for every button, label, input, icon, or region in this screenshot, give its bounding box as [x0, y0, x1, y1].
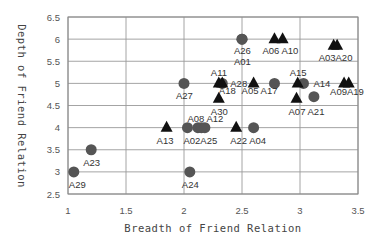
point-label: A30 — [211, 106, 228, 117]
y-tick-label: 3.5 — [47, 144, 60, 155]
point-label: A29 — [69, 179, 86, 190]
y-tick-label: 5 — [55, 78, 60, 89]
triangle-marker — [277, 32, 289, 43]
y-tick-label: 5.5 — [47, 56, 60, 67]
circle-marker — [182, 122, 193, 133]
y-tick-label: 6 — [55, 34, 60, 45]
point-label: A06 A10 — [262, 45, 298, 56]
x-tick-label: 2 — [181, 205, 186, 216]
triangle-marker — [230, 121, 242, 132]
data-markers — [68, 32, 354, 177]
y-tick-label: 4 — [55, 122, 60, 133]
point-label: A07 A21 — [289, 106, 325, 117]
circle-marker — [184, 166, 195, 177]
y-tick-label: 4.5 — [47, 100, 60, 111]
x-tick-label: 2.5 — [235, 205, 248, 216]
triangle-marker — [161, 121, 173, 132]
circle-marker — [248, 122, 259, 133]
point-label: A03A20 — [319, 52, 353, 63]
x-tick-label: 3.5 — [351, 205, 364, 216]
point-label: A13 — [157, 135, 174, 146]
x-tick-label: 1.5 — [119, 205, 132, 216]
x-tick-label: 1 — [65, 205, 70, 216]
point-label: A11 — [211, 67, 227, 78]
circle-marker — [199, 122, 210, 133]
point-label: A15 — [290, 67, 307, 78]
triangle-marker — [291, 92, 303, 103]
point-label: A09A19 — [330, 86, 364, 97]
circle-marker — [237, 34, 248, 45]
y-tick-label: 6.5 — [47, 12, 60, 23]
point-label: A02A25 — [183, 135, 217, 146]
y-tick-labels: 2.533.544.555.566.5 — [47, 12, 60, 200]
point-label: A26 — [234, 45, 251, 56]
y-tick-label: 2.5 — [47, 189, 60, 200]
circle-marker — [179, 78, 190, 89]
x-axis-title: Breadth of Friend Relation — [124, 222, 301, 234]
x-tick-label: 3 — [297, 205, 302, 216]
scatter-chart: 2.533.544.555.566.5 11.522.533.5 Breadth… — [0, 0, 390, 246]
y-tick-label: 3 — [55, 166, 60, 177]
circle-marker — [308, 91, 319, 102]
circle-marker — [68, 166, 79, 177]
circle-marker — [86, 144, 97, 155]
y-axis-title: Depth of Friend Relation — [16, 24, 28, 188]
point-label: A05 A17 — [242, 85, 278, 96]
point-label: A14 — [313, 78, 330, 89]
point-label: A23 — [83, 157, 100, 168]
x-tick-labels: 11.522.533.5 — [65, 205, 364, 216]
point-label: A01 — [234, 56, 251, 67]
point-labels: A29A23A24A27A13A02A25A08 A12A22 A04A30A1… — [69, 45, 364, 190]
point-label: A27 — [176, 90, 193, 101]
point-label: A22 A04 — [230, 135, 266, 146]
point-label: A24 — [182, 179, 199, 190]
